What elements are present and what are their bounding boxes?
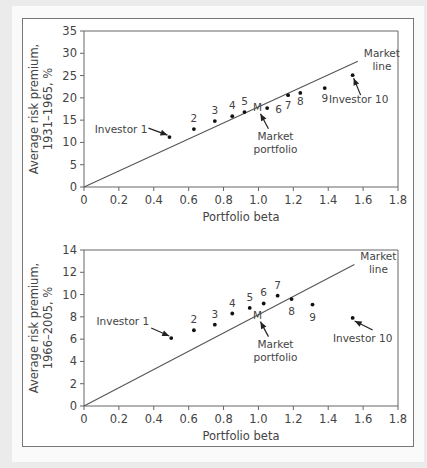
x-tick-label: 1.2 bbox=[284, 412, 302, 426]
x-tick-label: 0 bbox=[80, 193, 87, 207]
point-label: 6 bbox=[275, 103, 282, 115]
market-line-label: Marketline bbox=[364, 47, 400, 72]
x-tick-label: 0.8 bbox=[214, 412, 232, 426]
point-label: 3 bbox=[211, 104, 218, 116]
x-tick-label: 0.6 bbox=[180, 412, 198, 426]
y-tick-label: 10 bbox=[62, 288, 77, 302]
y-tick-label: 25 bbox=[62, 69, 77, 83]
y-axis-title: Average risk premium,1966–2005, % bbox=[27, 263, 55, 394]
x-axis-title: Portfolio beta bbox=[203, 429, 280, 443]
plot-area bbox=[84, 31, 398, 187]
chart-1966-2005: 0246810121400.20.40.60.81.01.21.41.61.8P… bbox=[27, 243, 407, 443]
y-tick-label: 0 bbox=[70, 180, 77, 194]
point-label: Investor 1 bbox=[95, 123, 148, 135]
x-tick-label: 1.6 bbox=[354, 412, 372, 426]
market-portfolio-marker: M bbox=[253, 101, 262, 113]
y-axis-title: Average risk premium,1931–1965, % bbox=[27, 44, 55, 175]
point-label: 9 bbox=[321, 92, 328, 104]
point-label: 5 bbox=[241, 95, 248, 107]
arrowhead-icon bbox=[160, 130, 168, 136]
data-point bbox=[265, 106, 269, 110]
point-label: 3 bbox=[211, 308, 218, 320]
y-tick-label: 10 bbox=[62, 135, 77, 149]
x-tick-label: 0.2 bbox=[110, 193, 128, 207]
x-axis-title: Portfolio beta bbox=[203, 210, 280, 224]
point-label: 4 bbox=[229, 297, 236, 309]
point-label: 2 bbox=[191, 112, 198, 124]
market-portfolio-label: Marketportfolio bbox=[253, 130, 297, 155]
x-tick-label: 1.0 bbox=[249, 412, 267, 426]
y-tick-label: 35 bbox=[62, 24, 77, 38]
data-point bbox=[230, 114, 234, 118]
market-line bbox=[84, 264, 354, 406]
point-label: 8 bbox=[288, 305, 295, 317]
data-point bbox=[323, 86, 327, 90]
data-point bbox=[230, 312, 234, 316]
chart-1931-1965: 0510152025303500.20.40.60.81.01.21.41.61… bbox=[27, 24, 407, 224]
data-point bbox=[192, 127, 196, 131]
data-point bbox=[351, 316, 355, 320]
data-point bbox=[213, 119, 217, 123]
point-label: 8 bbox=[297, 95, 304, 107]
y-tick-label: 12 bbox=[62, 265, 77, 279]
x-tick-label: 1.4 bbox=[319, 193, 337, 207]
y-tick-label: 20 bbox=[62, 91, 77, 105]
y-tick-label: 15 bbox=[62, 113, 77, 127]
point-label: Investor 10 bbox=[333, 332, 392, 344]
x-tick-label: 1.0 bbox=[249, 193, 267, 207]
point-label: 7 bbox=[285, 99, 292, 111]
arrowhead-icon bbox=[354, 78, 360, 86]
data-point bbox=[351, 73, 355, 77]
y-tick-label: 14 bbox=[62, 243, 77, 257]
x-tick-label: 0.4 bbox=[145, 412, 163, 426]
point-label: 7 bbox=[274, 279, 281, 291]
y-tick-label: 2 bbox=[70, 377, 77, 391]
x-tick-label: 1.2 bbox=[284, 193, 302, 207]
x-tick-label: 0.4 bbox=[145, 193, 163, 207]
y-tick-label: 0 bbox=[70, 399, 77, 413]
plot-area bbox=[84, 250, 398, 406]
x-tick-label: 0.6 bbox=[180, 193, 198, 207]
data-point bbox=[248, 306, 252, 310]
y-tick-label: 30 bbox=[62, 46, 77, 60]
market-portfolio-label: Marketportfolio bbox=[253, 338, 297, 363]
data-point bbox=[262, 302, 266, 306]
charts-canvas: 0510152025303500.20.40.60.81.01.21.41.61… bbox=[0, 0, 427, 468]
y-tick-label: 4 bbox=[70, 354, 77, 368]
data-point bbox=[290, 297, 294, 301]
market-portfolio-marker: M bbox=[253, 309, 262, 321]
point-label: Investor 10 bbox=[329, 93, 388, 105]
data-point bbox=[192, 328, 196, 332]
y-tick-label: 6 bbox=[70, 332, 77, 346]
x-tick-label: 0 bbox=[80, 412, 87, 426]
point-label: 9 bbox=[309, 311, 316, 323]
point-label: Investor 1 bbox=[96, 315, 149, 327]
x-tick-label: 1.6 bbox=[354, 193, 372, 207]
point-label: 4 bbox=[229, 99, 236, 111]
x-tick-label: 0.8 bbox=[214, 193, 232, 207]
data-point bbox=[311, 303, 315, 307]
data-point bbox=[286, 93, 290, 97]
y-tick-label: 8 bbox=[70, 310, 77, 324]
x-tick-label: 1.8 bbox=[389, 412, 407, 426]
market-line-label: Marketline bbox=[360, 250, 396, 275]
y-tick-label: 5 bbox=[70, 158, 77, 172]
x-tick-label: 0.2 bbox=[110, 412, 128, 426]
point-label: 6 bbox=[260, 286, 267, 298]
data-point bbox=[213, 323, 217, 327]
data-point bbox=[169, 336, 173, 340]
data-point bbox=[243, 110, 247, 114]
x-tick-label: 1.4 bbox=[319, 412, 337, 426]
point-label: 5 bbox=[246, 291, 253, 303]
point-label: 2 bbox=[191, 313, 198, 325]
data-point bbox=[276, 294, 280, 298]
data-point bbox=[168, 135, 172, 139]
x-tick-label: 1.8 bbox=[389, 193, 407, 207]
